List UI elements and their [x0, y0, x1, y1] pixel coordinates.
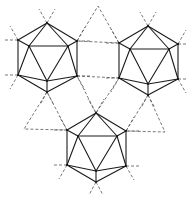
connector-triangle-top-between: [77, 6, 119, 43]
icosahedron-edge: [29, 46, 47, 81]
icosahedron-edge: [47, 46, 68, 81]
icosahedron-top-left: [17, 22, 78, 93]
icosahedron-edge: [117, 136, 126, 166]
dashed-stub: [59, 116, 67, 130]
vertex: [147, 25, 149, 27]
icosahedron-edge: [169, 44, 178, 49]
vertex: [177, 43, 179, 45]
icosahedron-edge: [18, 40, 29, 46]
icosahedron-edge: [68, 41, 77, 46]
dashed-stub: [10, 75, 18, 89]
connector-triangle-middle: [77, 76, 119, 113]
connector-triangle-right-lower: [126, 95, 165, 132]
vertex: [95, 170, 97, 172]
icosahedron-edge: [18, 46, 29, 75]
icosahedron-edge: [29, 23, 47, 46]
dashed-stub: [111, 78, 119, 92]
connector-triangle-left-lower: [24, 92, 67, 130]
icosahedron-edge: [78, 136, 96, 171]
vertex: [76, 40, 78, 42]
vertex: [168, 48, 170, 50]
icosahedron-edge: [96, 113, 117, 136]
icosahedron-edge: [68, 46, 77, 76]
icosahedron-edge: [96, 113, 126, 131]
icosahedron-edge: [148, 26, 178, 44]
icosahedron-edge: [67, 136, 78, 165]
icosahedron-edge: [47, 23, 68, 46]
icosahedron-edge: [67, 130, 78, 136]
icosahedron-edge: [119, 26, 148, 43]
vertex: [116, 135, 118, 137]
vertex: [147, 94, 149, 96]
icosahedron-edge: [119, 49, 130, 78]
vertex: [129, 48, 131, 50]
vertex: [46, 80, 48, 82]
icosahedron-edge: [117, 131, 126, 136]
dashed-stub: [178, 30, 186, 44]
vertex: [125, 165, 127, 167]
vertex: [28, 45, 30, 47]
dashed-stub: [148, 12, 156, 26]
icosahedron-edge: [119, 43, 130, 49]
vertex: [118, 42, 120, 44]
icosahedra-diagram: [0, 0, 188, 203]
icosahedron-edge: [130, 26, 148, 49]
vertex: [66, 129, 68, 131]
vertex: [46, 22, 48, 24]
dashed-stub: [39, 9, 47, 23]
vertex: [17, 74, 19, 76]
vertex: [118, 77, 120, 79]
icosahedron-edge: [67, 113, 96, 130]
icosahedron-top-right: [118, 25, 179, 96]
vertex: [125, 130, 127, 132]
vertex: [147, 83, 149, 85]
dashed-stub: [10, 26, 18, 40]
vertex: [95, 181, 97, 183]
vertex: [46, 91, 48, 93]
icosahedron-edge: [169, 49, 178, 79]
vertex: [76, 75, 78, 77]
vertex: [17, 39, 19, 41]
dashed-stub: [96, 182, 103, 195]
dashed-stub: [178, 79, 186, 93]
icosahedron-edge: [18, 23, 47, 40]
dashed-stub: [59, 165, 67, 179]
dashed-stub: [141, 95, 148, 108]
icosahedron-edge: [47, 23, 77, 41]
dashed-connectors: [4, 6, 188, 195]
vertex: [77, 135, 79, 137]
vertex: [177, 78, 179, 80]
icosahedron-bottom: [66, 112, 127, 183]
icosahedron-edge: [148, 26, 169, 49]
vertex: [67, 45, 69, 47]
dashed-stub: [47, 9, 55, 23]
vertex: [95, 112, 97, 114]
dashed-stub: [89, 182, 96, 195]
icosahedron-edge: [130, 49, 148, 84]
icosahedron-edge: [78, 113, 96, 136]
icosahedron-edge: [96, 136, 117, 171]
icosahedron-edge: [148, 49, 169, 84]
dashed-stub: [140, 12, 148, 26]
vertex: [66, 164, 68, 166]
dashed-stub: [126, 166, 134, 180]
